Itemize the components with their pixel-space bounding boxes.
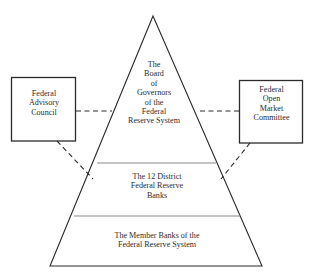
tier-label-district-reserve-banks: The 12 District Federal Reserve Banks xyxy=(100,172,214,200)
pyramid-outline xyxy=(50,16,262,266)
tier-label-board-of-governors: The Board of Governors of the Federal Re… xyxy=(108,60,200,126)
federal-reserve-structure-diagram: The Board of Governors of the Federal Re… xyxy=(0,0,311,280)
tier-label-member-banks: The Member Banks of the Federal Reserve … xyxy=(78,231,236,250)
connector-fomc-to-district-banks xyxy=(221,143,250,179)
federal-open-market-committee-label: Federal Open Market Committee xyxy=(240,85,303,123)
federal-advisory-council-label: Federal Advisory Council xyxy=(12,89,76,117)
connector-fac-to-district-banks xyxy=(57,141,93,179)
